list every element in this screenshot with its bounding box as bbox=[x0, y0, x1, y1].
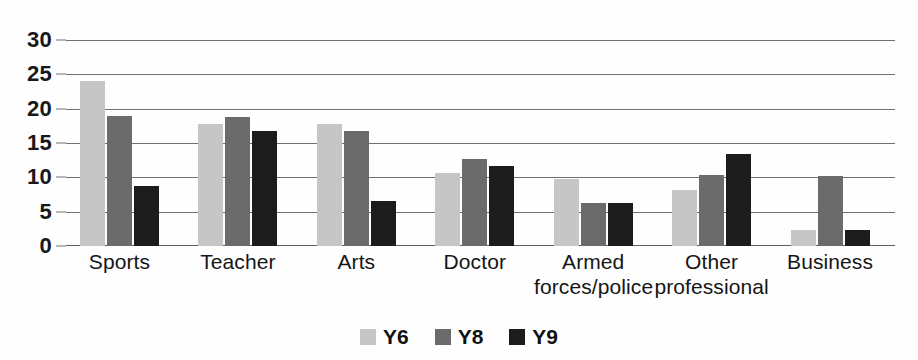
y-axis-tick-mark bbox=[56, 246, 66, 247]
legend-label: Y9 bbox=[532, 326, 558, 347]
bar-group bbox=[303, 40, 421, 246]
y-axis-tick-mark bbox=[56, 143, 66, 144]
bar-y8-arts bbox=[344, 131, 369, 246]
bar-chart: 051015202530 SportsTeacherArtsDoctorArme… bbox=[0, 0, 918, 360]
x-axis-label-line: Other bbox=[652, 250, 770, 275]
y-axis-tick-mark bbox=[56, 177, 66, 178]
bar-y8-other-professional bbox=[699, 175, 724, 246]
bar-y6-other-professional bbox=[672, 190, 697, 246]
bar-y8-armed-forces-police bbox=[581, 203, 606, 246]
x-axis-label-sports: Sports bbox=[60, 250, 178, 275]
x-axis-label-doctor: Doctor bbox=[416, 250, 534, 275]
y-axis-tick-mark bbox=[56, 74, 66, 75]
x-axis-label-line: Business bbox=[771, 250, 889, 275]
y-axis-tick-label: 10 bbox=[27, 166, 52, 188]
bar-group bbox=[66, 40, 184, 246]
legend-entry-y8[interactable]: Y8 bbox=[435, 326, 484, 347]
y-axis-tick-mark bbox=[56, 211, 66, 212]
x-axis-label-line: Doctor bbox=[416, 250, 534, 275]
x-axis-label-teacher: Teacher bbox=[179, 250, 297, 275]
y-axis-tick-label: 5 bbox=[39, 201, 52, 223]
x-axis-label-line: Armed bbox=[534, 250, 652, 275]
x-axis-label-arts: Arts bbox=[297, 250, 415, 275]
bar-group bbox=[540, 40, 658, 246]
legend-entry-y9[interactable]: Y9 bbox=[509, 326, 558, 347]
bar-y6-sports bbox=[80, 81, 105, 246]
legend-swatch-y8 bbox=[435, 329, 451, 345]
bar-y9-sports bbox=[134, 186, 159, 246]
x-axis-label-line: Sports bbox=[60, 250, 178, 275]
legend-entry-y6[interactable]: Y6 bbox=[360, 326, 409, 347]
y-axis: 051015202530 bbox=[0, 0, 66, 246]
bar-y8-doctor bbox=[462, 159, 487, 246]
bar-y6-teacher bbox=[198, 124, 223, 246]
y-axis-tick-label: 30 bbox=[27, 29, 52, 51]
x-axis-label-business: Business bbox=[771, 250, 889, 275]
bar-y9-other-professional bbox=[726, 154, 751, 246]
bar-y6-business bbox=[791, 230, 816, 246]
bar-group bbox=[184, 40, 302, 246]
bar-group bbox=[421, 40, 539, 246]
bar-y6-arts bbox=[317, 124, 342, 246]
y-axis-tick-label: 20 bbox=[27, 98, 52, 120]
bar-y9-arts bbox=[371, 201, 396, 246]
bar-y8-teacher bbox=[225, 117, 250, 246]
x-axis-label-line: Teacher bbox=[179, 250, 297, 275]
y-axis-tick-label: 15 bbox=[27, 132, 52, 154]
legend-swatch-y6 bbox=[360, 329, 376, 345]
bar-group bbox=[658, 40, 776, 246]
y-axis-tick-label: 0 bbox=[39, 235, 52, 257]
legend-label: Y8 bbox=[458, 326, 484, 347]
bar-y6-armed-forces-police bbox=[554, 179, 579, 246]
legend-label: Y6 bbox=[383, 326, 409, 347]
y-axis-tick-mark bbox=[56, 40, 66, 41]
bar-y9-armed-forces-police bbox=[608, 203, 633, 246]
bar-y9-business bbox=[845, 230, 870, 246]
y-axis-tick-mark bbox=[56, 108, 66, 109]
x-axis-label-armed-forces-police: Armedforces/police bbox=[534, 250, 652, 300]
bar-y8-sports bbox=[107, 116, 132, 246]
legend-swatch-y9 bbox=[509, 329, 525, 345]
bar-group bbox=[777, 40, 895, 246]
x-axis-labels: SportsTeacherArtsDoctorArmedforces/polic… bbox=[66, 250, 895, 310]
x-axis-label-other-professional: Otherprofessional bbox=[652, 250, 770, 300]
bar-y9-doctor bbox=[489, 166, 514, 246]
bar-y9-teacher bbox=[252, 131, 277, 246]
chart-legend: Y6Y8Y9 bbox=[0, 326, 918, 347]
bar-y8-business bbox=[818, 176, 843, 246]
x-axis-label-line: Arts bbox=[297, 250, 415, 275]
x-axis-label-line: forces/police bbox=[534, 275, 652, 300]
bar-y6-doctor bbox=[435, 173, 460, 246]
y-axis-tick-label: 25 bbox=[27, 63, 52, 85]
x-axis-label-line: professional bbox=[652, 275, 770, 300]
plot-area bbox=[66, 40, 895, 246]
